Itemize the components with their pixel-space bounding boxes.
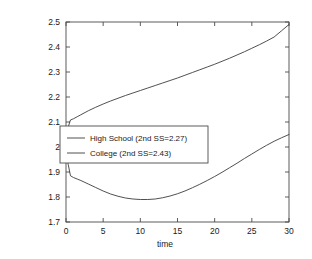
y-axis-ticks	[66, 22, 289, 222]
y-tick-label: 1.8	[48, 192, 60, 202]
x-tick-label: 25	[247, 226, 257, 236]
y-tick-label: 1.7	[48, 217, 60, 227]
y-tick-label: 2.5	[48, 17, 60, 27]
chart-figure: 051015202530 1.71.81.922.12.22.32.42.5 t…	[0, 0, 312, 259]
x-tick-label: 20	[210, 226, 220, 236]
x-axis-tick-labels: 051015202530	[64, 226, 294, 236]
y-tick-label: 2	[55, 142, 60, 152]
data-series-group	[66, 25, 289, 200]
x-tick-label: 30	[284, 226, 294, 236]
chart-legend: High School (2nd SS=2.27)College (2nd SS…	[60, 126, 208, 163]
y-tick-label: 2.2	[48, 92, 60, 102]
y-tick-label: 2.4	[48, 42, 60, 52]
plot-frame	[66, 22, 289, 222]
x-axis-title: time	[157, 239, 173, 249]
legend-label: College (2nd SS=2.43)	[90, 149, 172, 158]
x-tick-label: 10	[136, 226, 146, 236]
x-axis-ticks	[66, 22, 289, 222]
y-tick-label: 2.1	[48, 117, 60, 127]
line-chart: 051015202530 1.71.81.922.12.22.32.42.5 t…	[0, 0, 312, 259]
y-tick-label: 2.3	[48, 67, 60, 77]
x-tick-label: 0	[64, 226, 69, 236]
y-tick-label: 1.9	[48, 167, 60, 177]
y-axis-tick-labels: 1.71.81.922.12.22.32.42.5	[48, 17, 60, 227]
legend-label: High School (2nd SS=2.27)	[90, 134, 188, 143]
x-tick-label: 15	[173, 226, 183, 236]
x-tick-label: 5	[101, 226, 106, 236]
